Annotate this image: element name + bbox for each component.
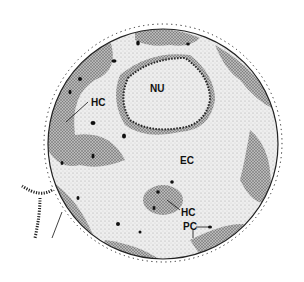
arrow-pointer bbox=[52, 212, 62, 238]
label-heterochromatin-center: HC bbox=[181, 208, 195, 218]
label-nucleolus: NU bbox=[150, 84, 164, 94]
nucleoplasm bbox=[40, 20, 290, 270]
label-heterochromatin-left: HC bbox=[91, 98, 105, 108]
nucleus-illustration bbox=[0, 0, 304, 282]
label-perichromatin: PC bbox=[183, 222, 197, 232]
label-euchromatin: EC bbox=[180, 156, 194, 166]
nucleus-diagram bbox=[0, 0, 304, 282]
er-cisterna bbox=[22, 186, 52, 238]
